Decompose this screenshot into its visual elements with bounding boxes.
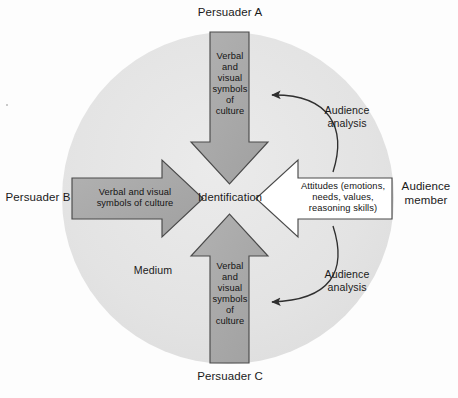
persuader-a-label: Persuader A (160, 6, 300, 20)
audience-analysis-lower-label: Audience analysis (309, 268, 385, 293)
audience-member-arrow-text: Attitudes (emotions, needs, values, reas… (290, 181, 396, 214)
diagram-canvas: Persuader A Verbal and visual symbols of… (0, 0, 458, 398)
persuader-b-label: Persuader B (2, 191, 74, 205)
audience-analysis-upper-label: Audience analysis (309, 104, 385, 129)
audience-member-label: Audience member (396, 180, 456, 207)
persuader-b-arrow-text: Verbal and visual symbols of culture (81, 187, 189, 209)
identification-label: Identification (186, 191, 274, 204)
persuader-a-arrow-text: Verbal and visual symbols of culture (200, 51, 260, 117)
scan-artifact-speck (6, 104, 8, 106)
persuader-c-arrow-text: Verbal and visual symbols of culture (200, 261, 260, 327)
persuader-c-label: Persuader C (160, 370, 300, 384)
medium-label: Medium (117, 264, 189, 277)
